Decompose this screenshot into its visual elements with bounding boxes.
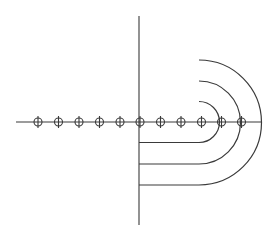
diagram-canvas [0, 0, 280, 240]
diagram-svg [0, 0, 280, 240]
